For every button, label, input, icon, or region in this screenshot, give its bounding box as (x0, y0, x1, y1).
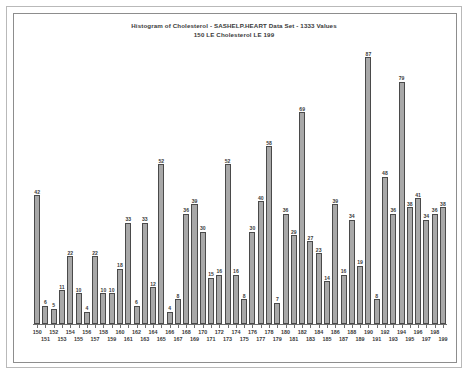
tick-mark (360, 324, 361, 328)
tick-mark (95, 324, 96, 328)
bar-value-label: 8 (177, 293, 180, 299)
x-axis-label: 195 (405, 336, 414, 343)
tick-mark (377, 324, 378, 328)
tick-mark (219, 324, 220, 328)
bar-rect (142, 223, 148, 324)
bar-value-label: 52 (159, 158, 165, 164)
x-axis-label: 165 (157, 336, 166, 343)
tick-mark (327, 324, 328, 328)
histogram-bar: 34 (422, 49, 430, 324)
bar-value-label: 8 (375, 293, 378, 299)
plot-area: 4265112210422101018336331252483639301516… (33, 49, 447, 324)
x-axis-label: 170 (198, 329, 207, 336)
histogram-bar: 87 (364, 49, 372, 324)
bar-rect (42, 306, 48, 324)
histogram-bar: 10 (99, 49, 107, 324)
bar-value-label: 36 (183, 207, 189, 213)
bar-value-label: 4 (168, 305, 171, 311)
histogram-bar: 11 (58, 49, 66, 324)
x-axis-label: 187 (339, 336, 348, 343)
tick-mark (244, 324, 245, 328)
bar-rect (241, 299, 247, 324)
x-axis-label: 196 (414, 329, 423, 336)
bar-rect (390, 214, 396, 324)
x-axis-label: 153 (57, 336, 66, 343)
tick-mark (54, 324, 55, 328)
tick-mark (302, 324, 303, 328)
bar-rect (225, 164, 231, 324)
bar-rect (415, 198, 421, 324)
bar-rect (258, 201, 264, 324)
x-axis-label: 177 (256, 336, 265, 343)
bar-value-label: 10 (101, 287, 107, 293)
histogram-bar: 6 (41, 49, 49, 324)
bar-rect (150, 287, 156, 324)
histogram-bar: 10 (74, 49, 82, 324)
x-axis-labels: 1501511521531541551561571581591601611621… (33, 328, 447, 348)
histogram-bar: 8 (240, 49, 248, 324)
bar-value-label: 36 (390, 207, 396, 213)
tick-mark (352, 324, 353, 328)
bar-rect (100, 293, 106, 324)
histogram-bar: 41 (414, 49, 422, 324)
histogram-bar: 16 (339, 49, 347, 324)
histogram-bar: 58 (265, 49, 273, 324)
bar-rect (316, 253, 322, 324)
histogram-bar: 30 (199, 49, 207, 324)
histogram-bar: 4 (166, 49, 174, 324)
x-axis-label: 183 (306, 336, 315, 343)
bar-rect (440, 207, 446, 324)
bar-value-label: 34 (424, 213, 430, 219)
bar-value-label: 36 (283, 207, 289, 213)
tick-mark (236, 324, 237, 328)
tick-mark (103, 324, 104, 328)
bar-rect (183, 214, 189, 324)
tick-mark (153, 324, 154, 328)
bar-rect (357, 266, 363, 324)
x-axis-label: 166 (165, 329, 174, 336)
bar-rect (423, 220, 429, 324)
bar-value-label: 11 (59, 284, 64, 290)
x-axis-label: 155 (74, 336, 83, 343)
tick-mark (186, 324, 187, 328)
histogram-bar: 48 (381, 49, 389, 324)
x-axis-label: 164 (149, 329, 158, 336)
histogram-bar: 38 (439, 49, 447, 324)
bar-value-label: 33 (125, 216, 131, 222)
x-axis-label: 161 (124, 336, 133, 343)
histogram-bar: 79 (397, 49, 405, 324)
x-axis-label: 172 (215, 329, 224, 336)
bar-rect (266, 146, 272, 324)
bar-value-label: 19 (357, 259, 363, 265)
bar-rect (59, 290, 65, 324)
x-axis-label: 154 (66, 329, 75, 336)
histogram-bar: 36 (431, 49, 439, 324)
histogram-bar: 7 (273, 49, 281, 324)
bar-value-label: 6 (135, 299, 138, 305)
tick-mark (410, 324, 411, 328)
x-axis-label: 181 (289, 336, 298, 343)
tick-mark (335, 324, 336, 328)
tick-mark (261, 324, 262, 328)
bar-rect (432, 214, 438, 324)
tick-mark (194, 324, 195, 328)
histogram-bar: 52 (223, 49, 231, 324)
histogram-bar: 8 (174, 49, 182, 324)
bar-rect (167, 312, 173, 324)
bar-rect (307, 241, 313, 324)
tick-mark (87, 324, 88, 328)
x-axis-label: 198 (430, 329, 439, 336)
bar-value-label: 22 (92, 250, 98, 256)
bar-value-label: 16 (216, 268, 222, 274)
tick-mark (252, 324, 253, 328)
bar-value-label: 4 (85, 305, 88, 311)
tick-mark (170, 324, 171, 328)
x-axis-label: 159 (107, 336, 116, 343)
x-axis-label: 150 (33, 329, 42, 336)
bar-rect (109, 293, 115, 324)
tick-mark (277, 324, 278, 328)
x-axis-label: 182 (298, 329, 307, 336)
bar-value-label: 33 (142, 216, 148, 222)
x-axis-label: 163 (140, 336, 149, 343)
bar-rect (299, 112, 305, 324)
